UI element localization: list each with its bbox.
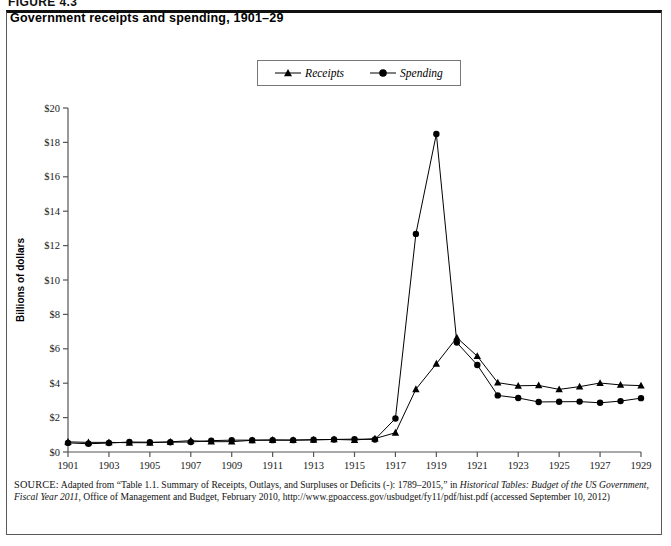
legend-label-spending: Spending [400, 67, 443, 79]
legend-item-receipts: Receipts [275, 67, 344, 79]
source-text-1: Adapted from “Table 1.1. Summary of Rece… [59, 479, 460, 490]
source-note: SOURCE: Adapted from “Table 1.1. Summary… [14, 479, 650, 503]
figure-frame [6, 10, 662, 535]
legend-item-spending: Spending [370, 67, 443, 79]
page-title: Government receipts and spending, 1901–2… [10, 11, 284, 25]
triangle-marker-icon [275, 68, 301, 78]
source-prefix: SOURCE: [14, 479, 59, 490]
chart-legend: Receipts Spending [257, 60, 461, 86]
figure-number: FIGURE 4.3 [8, 0, 77, 9]
source-text-2: , Office of Management and Budget, Febru… [79, 491, 610, 502]
legend-label-receipts: Receipts [305, 67, 344, 79]
circle-marker-icon [370, 68, 396, 78]
